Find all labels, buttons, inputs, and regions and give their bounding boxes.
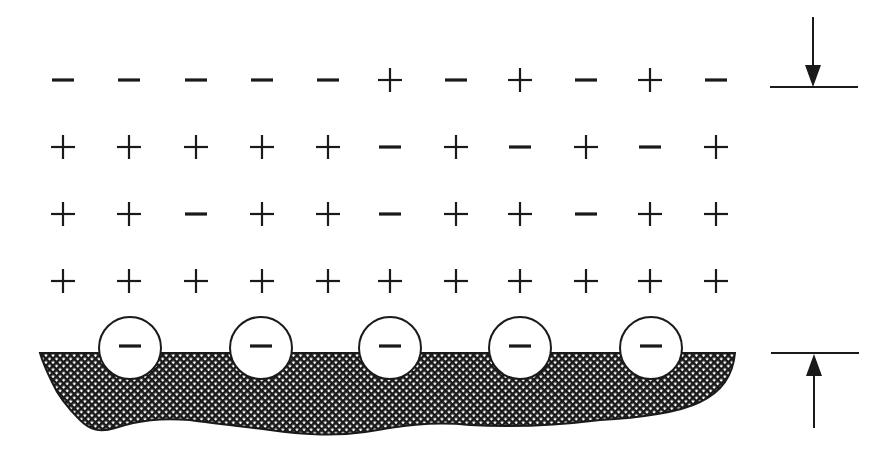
plus-charge-icon bbox=[51, 202, 75, 226]
plus-charge-icon bbox=[117, 269, 141, 293]
plus-charge-icon bbox=[508, 68, 532, 92]
adsorbed-negative-ion bbox=[99, 317, 161, 379]
adsorbed-negative-ion bbox=[230, 317, 292, 379]
arrow-down-head bbox=[805, 65, 821, 87]
ion-charge-grid bbox=[51, 68, 728, 293]
plus-charge-icon bbox=[638, 202, 662, 226]
plus-charge-icon bbox=[51, 135, 75, 159]
plus-charge-icon bbox=[638, 269, 662, 293]
adsorbed-negative-ion bbox=[359, 317, 421, 379]
plus-charge-icon bbox=[184, 269, 208, 293]
plus-charge-icon bbox=[638, 68, 662, 92]
plus-charge-icon bbox=[444, 135, 468, 159]
plus-charge-icon bbox=[508, 202, 532, 226]
plus-charge-icon bbox=[444, 269, 468, 293]
plus-charge-icon bbox=[316, 269, 340, 293]
plus-charge-icon bbox=[378, 68, 402, 92]
plus-charge-icon bbox=[184, 135, 208, 159]
plus-charge-icon bbox=[316, 135, 340, 159]
diagram-canvas bbox=[0, 0, 890, 458]
plus-charge-icon bbox=[704, 269, 728, 293]
plus-charge-icon bbox=[574, 135, 598, 159]
adsorbed-negative-ion bbox=[620, 317, 682, 379]
plus-charge-icon bbox=[250, 202, 274, 226]
arrow-up-head bbox=[806, 354, 822, 376]
plus-charge-icon bbox=[704, 135, 728, 159]
plus-charge-icon bbox=[378, 269, 402, 293]
plus-charge-icon bbox=[250, 269, 274, 293]
charge-layer-diagram bbox=[0, 0, 890, 458]
plus-charge-icon bbox=[51, 269, 75, 293]
plus-charge-icon bbox=[250, 135, 274, 159]
plus-charge-icon bbox=[316, 202, 340, 226]
adsorbed-negative-ion bbox=[489, 317, 551, 379]
plus-charge-icon bbox=[117, 202, 141, 226]
thickness-marker bbox=[770, 17, 859, 428]
plus-charge-icon bbox=[508, 269, 532, 293]
plus-charge-icon bbox=[117, 135, 141, 159]
plus-charge-icon bbox=[574, 269, 598, 293]
plus-charge-icon bbox=[444, 202, 468, 226]
plus-charge-icon bbox=[704, 202, 728, 226]
